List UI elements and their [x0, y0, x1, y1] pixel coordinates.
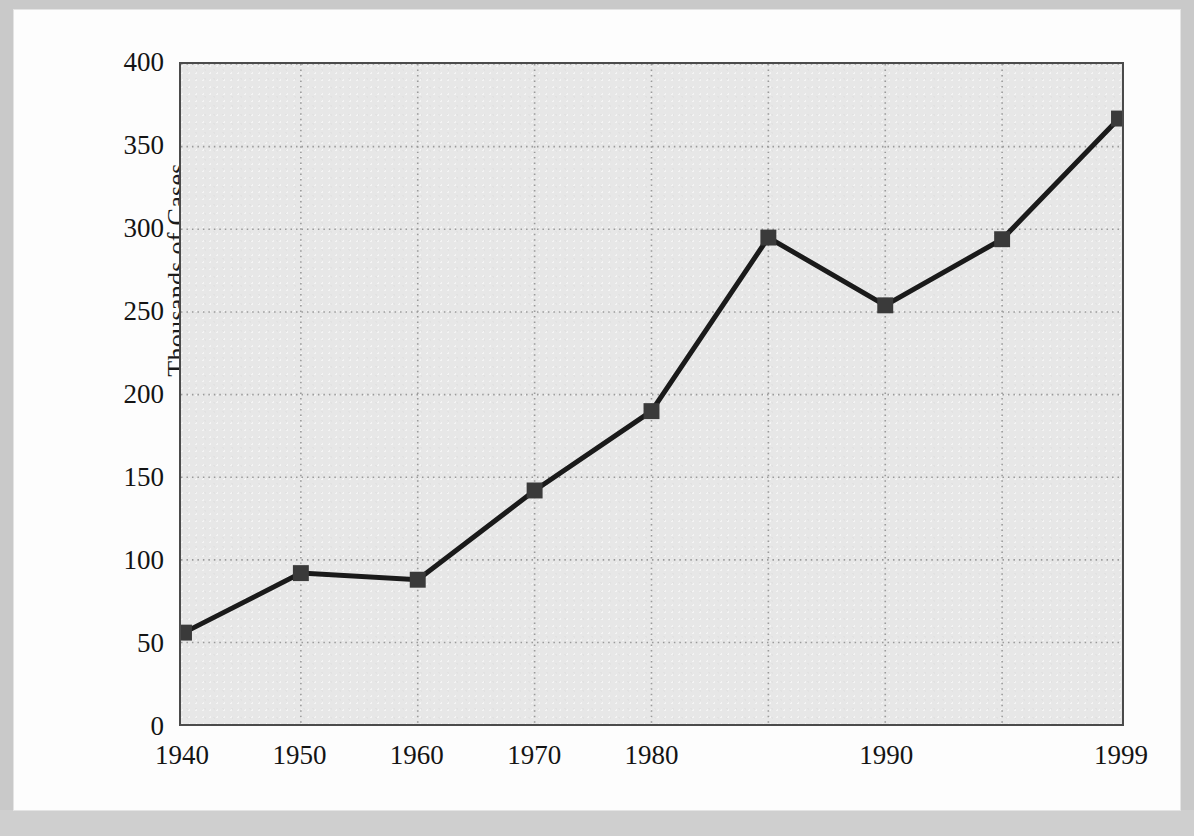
x-tick-label: 1999	[1051, 740, 1191, 771]
y-tick-label: 250	[94, 296, 164, 327]
y-tick-label: 350	[94, 130, 164, 161]
plot-area	[179, 62, 1124, 726]
y-tick-label: 100	[94, 545, 164, 576]
x-tick-label: 1990	[816, 740, 956, 771]
x-tick-label: 1980	[582, 740, 722, 771]
y-axis-tick-labels: 050100150200250300350400	[94, 62, 164, 726]
data-point-marker	[527, 482, 543, 498]
data-point-marker	[181, 625, 192, 641]
y-tick-label: 200	[94, 379, 164, 410]
data-point-marker	[293, 565, 309, 581]
data-point-marker	[644, 403, 660, 419]
data-point-marker	[1111, 111, 1122, 127]
y-tick-label: 50	[94, 628, 164, 659]
scanned-page: Thousands of Cases 050100150200250300350…	[0, 0, 1194, 836]
line-chart-figure: Thousands of Cases 050100150200250300350…	[14, 10, 1180, 810]
x-axis-tick-labels: 1940195019601970198019901999	[179, 740, 1124, 784]
data-point-marker	[410, 572, 426, 588]
data-point-marker	[994, 231, 1010, 247]
data-point-marker	[877, 297, 893, 313]
horizontal-gridlines	[181, 64, 1122, 643]
y-tick-label: 0	[94, 711, 164, 742]
data-point-marker	[760, 230, 776, 246]
page-white-area: Thousands of Cases 050100150200250300350…	[14, 10, 1180, 810]
y-tick-label: 300	[94, 213, 164, 244]
chart-svg	[181, 64, 1122, 725]
y-tick-label: 150	[94, 462, 164, 493]
page-bottom-shadow	[0, 810, 1194, 836]
y-tick-label: 400	[94, 47, 164, 78]
